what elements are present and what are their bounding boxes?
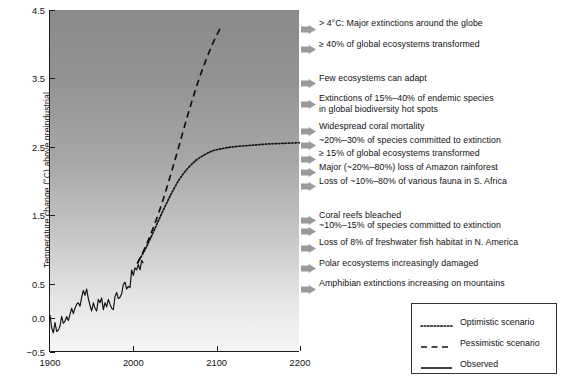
legend-item: Observed	[420, 358, 498, 370]
legend-line-sample-solid	[420, 359, 453, 369]
impact-annotation: Few ecosystems can adapt	[301, 73, 427, 84]
y-tick-mark	[50, 284, 55, 285]
arrow-right-icon	[301, 222, 316, 231]
y-tick-mark	[50, 215, 55, 216]
impact-annotation: ~10%–15% of species committed to extinct…	[301, 220, 501, 231]
arrow-right-icon	[301, 122, 316, 131]
y-tick-mark	[50, 10, 55, 11]
impact-annotation-text: Few ecosystems can adapt	[319, 73, 427, 84]
y-tick-label: 2.5	[32, 141, 45, 152]
legend-label: Pessimistic scenario	[460, 338, 540, 348]
arrow-right-icon	[301, 40, 316, 49]
impact-annotation: Extinctions of 15%–40% of endemic specie…	[301, 93, 494, 114]
arrow-right-icon	[301, 239, 316, 248]
impact-annotation-text: ~10%–15% of species committed to extinct…	[319, 220, 501, 231]
impact-annotation: ≥ 15% of global ecosystems transformed	[301, 148, 480, 159]
x-tick-mark	[133, 346, 134, 351]
impact-annotation: > 4°C: Major extinctions around the glob…	[301, 18, 483, 29]
impact-annotation: Loss of ~10%–80% of various fauna in S. …	[301, 176, 507, 187]
y-tick-label: 1.5	[32, 210, 45, 221]
chart-lines	[50, 10, 300, 352]
y-tick-label: 0.0	[32, 312, 45, 323]
legend-item: Optimistic scenario	[420, 316, 534, 328]
arrow-right-icon	[301, 177, 316, 186]
impact-annotation-text: Amphibian extinctions increasing on moun…	[319, 278, 505, 289]
impact-annotation: Coral reefs bleached	[301, 210, 401, 221]
series-observed	[50, 260, 143, 333]
series-optimistic	[138, 143, 301, 263]
arrow-right-icon	[301, 259, 316, 268]
legend: Optimistic scenarioPessimistic scenarioO…	[411, 303, 557, 374]
series-pessimistic	[138, 27, 221, 263]
legend-line-sample-dotted	[420, 317, 453, 327]
x-tick-mark	[217, 346, 218, 351]
legend-item: Pessimistic scenario	[420, 337, 540, 349]
impact-annotation-text: Major (~20%–80%) loss of Amazon rainfore…	[319, 162, 498, 173]
legend-label: Observed	[460, 359, 498, 369]
impact-annotation-text: Polar ecosystems increasingly damaged	[319, 258, 478, 269]
x-tick-label: 2100	[206, 357, 227, 368]
impact-annotation: Loss of 8% of freshwater fish habitat in…	[301, 237, 518, 248]
impact-annotation-text: ≥ 40% of global ecosystems transformed	[319, 39, 480, 50]
impact-annotation: Widespread coral mortality	[301, 121, 424, 132]
y-tick-label: 0.5	[32, 278, 45, 289]
legend-line-sample-dashed	[420, 338, 453, 348]
arrow-right-icon	[301, 280, 316, 289]
legend-label: Optimistic scenario	[460, 317, 534, 327]
y-tick-mark	[50, 352, 55, 353]
x-tick-label: 2000	[123, 357, 144, 368]
y-tick-label: 4.5	[32, 5, 45, 16]
impact-annotation: Major (~20%–80%) loss of Amazon rainfore…	[301, 162, 498, 173]
arrow-right-icon	[301, 20, 316, 29]
arrow-right-icon	[301, 163, 316, 172]
impact-annotation: Amphibian extinctions increasing on moun…	[301, 278, 505, 289]
impact-annotation-text: Loss of ~10%–80% of various fauna in S. …	[319, 176, 507, 187]
impact-annotation-text: Coral reefs bleached	[319, 210, 401, 221]
y-tick-mark	[50, 318, 55, 319]
arrow-right-icon	[301, 95, 316, 104]
arrow-right-icon	[301, 150, 316, 159]
y-tick-mark	[50, 78, 55, 79]
impact-annotation-text: Loss of 8% of freshwater fish habitat in…	[319, 237, 518, 248]
y-tick-label: −0.5	[26, 347, 45, 358]
impact-annotation-text: ≥ 15% of global ecosystems transformed	[319, 148, 480, 159]
arrow-right-icon	[301, 136, 316, 145]
impact-annotation: Polar ecosystems increasingly damaged	[301, 258, 478, 269]
climate-impacts-figure: Temperature change (°C) above preindustr…	[0, 0, 565, 384]
y-tick-label: 3.5	[32, 73, 45, 84]
x-tick-label: 1900	[40, 357, 61, 368]
arrow-right-icon	[301, 74, 316, 83]
impact-annotation: ~20%–30% of species committed to extinct…	[301, 135, 501, 146]
impact-annotation: ≥ 40% of global ecosystems transformed	[301, 39, 480, 50]
impact-annotation-text: Extinctions of 15%–40% of endemic specie…	[319, 93, 494, 114]
impact-annotation-text: Widespread coral mortality	[319, 121, 424, 132]
plot-area: 4.53.52.51.50.50.0−0.51900200021002200	[49, 10, 299, 352]
arrow-right-icon	[301, 211, 316, 220]
y-tick-mark	[50, 147, 55, 148]
impact-annotation-text: ~20%–30% of species committed to extinct…	[319, 135, 501, 146]
impact-annotation-text: > 4°C: Major extinctions around the glob…	[319, 18, 483, 29]
